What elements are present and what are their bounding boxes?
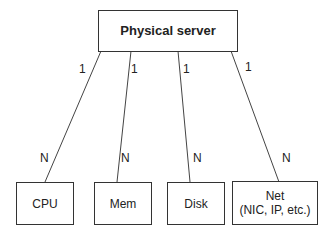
cardinality-parent-mem: 1 bbox=[131, 62, 138, 76]
cardinality-parent-net: 1 bbox=[245, 60, 252, 74]
edge-cpu bbox=[45, 51, 101, 182]
node-label: CPU bbox=[32, 197, 57, 211]
physical-server-node: Physical server bbox=[98, 10, 238, 52]
cardinality-parent-disk: 1 bbox=[183, 62, 190, 76]
node-label: Physical server bbox=[120, 24, 215, 38]
mem-node: Mem bbox=[94, 182, 152, 225]
cardinality-child-disk: N bbox=[193, 151, 202, 165]
edge-net bbox=[231, 51, 279, 182]
node-label: Mem bbox=[110, 197, 137, 211]
node-label: Disk bbox=[184, 197, 207, 211]
cardinality-parent-cpu: 1 bbox=[79, 62, 86, 76]
cardinality-child-net: N bbox=[282, 151, 291, 165]
net-node: Net (NIC, IP, etc.) bbox=[232, 181, 318, 225]
disk-node: Disk bbox=[167, 182, 225, 225]
node-label: Net bbox=[266, 189, 285, 203]
node-sublabel: (NIC, IP, etc.) bbox=[239, 203, 310, 217]
cardinality-child-cpu: N bbox=[40, 151, 49, 165]
cardinality-child-mem: N bbox=[121, 151, 130, 165]
cpu-node: CPU bbox=[16, 182, 74, 225]
